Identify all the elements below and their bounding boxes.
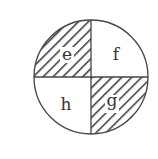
quadrant-f-fill	[91, 20, 148, 77]
quadrant-g-shading	[91, 77, 148, 134]
quadrant-circle-diagram: e f g h	[0, 0, 158, 159]
label-h: h	[61, 94, 72, 114]
label-g: g	[107, 90, 118, 110]
label-e: e	[62, 44, 72, 64]
